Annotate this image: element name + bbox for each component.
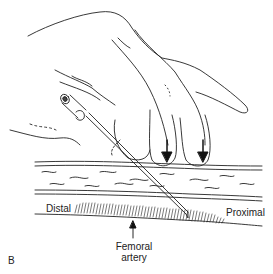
panel-letter: B bbox=[8, 255, 15, 266]
label-distal: Distal bbox=[46, 203, 71, 214]
artery-pointer-arrow bbox=[130, 221, 136, 238]
label-femoral-line1: Femoral bbox=[114, 241, 154, 252]
femoral-artery-hatching bbox=[75, 203, 224, 223]
label-proximal: Proximal bbox=[226, 207, 265, 218]
label-femoral-artery: Femoral artery bbox=[114, 241, 154, 263]
hand-drawing bbox=[10, 12, 248, 166]
pressure-arrows bbox=[162, 140, 208, 162]
label-femoral-line2: artery bbox=[114, 252, 154, 263]
illustration-drawing bbox=[0, 0, 273, 274]
femoral-puncture-illustration: Distal Proximal Femoral artery B bbox=[0, 0, 273, 274]
